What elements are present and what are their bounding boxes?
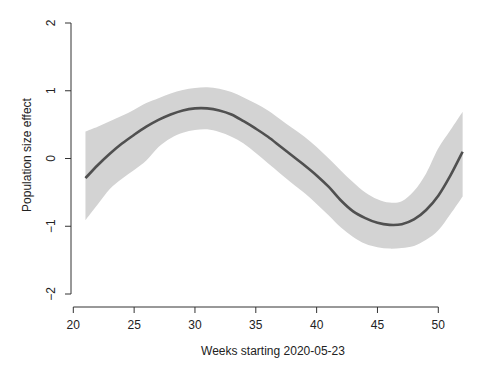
x-tick-label: 20 <box>67 318 81 332</box>
chart: −2−1012 20253035404550 Weeks starting 20… <box>0 0 477 376</box>
y-tick-label: 2 <box>44 19 58 26</box>
x-tick-label: 25 <box>127 318 141 332</box>
x-axis-label: Weeks starting 2020-05-23 <box>201 344 345 358</box>
y-tick-label: −2 <box>44 287 58 301</box>
y-tick-label: 0 <box>44 155 58 162</box>
x-tick-label: 30 <box>188 318 202 332</box>
x-tick-label: 45 <box>371 318 385 332</box>
y-axis: −2−1012 <box>44 19 71 301</box>
y-tick-label: −1 <box>44 219 58 233</box>
x-tick-label: 35 <box>249 318 263 332</box>
x-axis: 20253035404550 <box>67 307 446 332</box>
confidence-band <box>85 87 462 248</box>
y-tick-label: 1 <box>44 87 58 94</box>
x-tick-label: 50 <box>432 318 446 332</box>
y-axis-label: Population size effect <box>20 97 34 212</box>
x-tick-label: 40 <box>310 318 324 332</box>
